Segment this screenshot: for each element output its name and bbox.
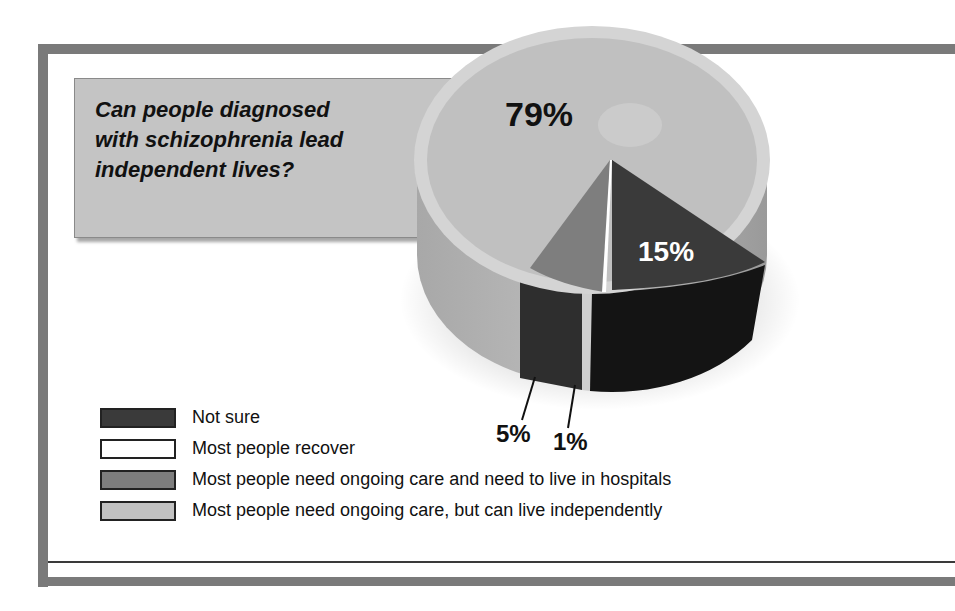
legend-swatch-not-sure: [100, 408, 176, 428]
pie-highlight: [598, 103, 662, 147]
legend-swatch-independent: [100, 501, 176, 521]
label-79-percent: 79%: [505, 95, 573, 134]
legend: Not sure Most people recover Most people…: [100, 402, 671, 526]
label-15-percent: 15%: [638, 236, 694, 268]
legend-label: Most people need ongoing care, but can l…: [192, 500, 662, 521]
legend-swatch-hospitals: [100, 470, 176, 490]
legend-swatch-recover: [100, 439, 176, 459]
legend-item-independent: Most people need ongoing care, but can l…: [100, 495, 671, 526]
legend-label: Most people need ongoing care and need t…: [192, 469, 671, 490]
legend-label: Most people recover: [192, 438, 355, 459]
legend-item-recover: Most people recover: [100, 433, 671, 464]
legend-label: Not sure: [192, 407, 260, 428]
legend-item-hospitals: Most people need ongoing care and need t…: [100, 464, 671, 495]
legend-item-not-sure: Not sure: [100, 402, 671, 433]
